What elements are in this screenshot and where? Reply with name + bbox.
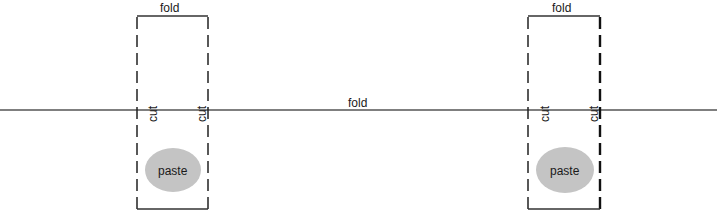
top-fold-label: fold bbox=[552, 1, 571, 15]
paste-label: paste bbox=[550, 164, 580, 178]
top-fold-label: fold bbox=[160, 1, 179, 15]
cut-label-right: cut bbox=[587, 105, 601, 122]
right-panel: fold cut cut paste bbox=[528, 1, 601, 210]
cut-label-left: cut bbox=[146, 105, 160, 122]
cut-label-left: cut bbox=[538, 105, 552, 122]
paste-label: paste bbox=[158, 164, 188, 178]
left-panel: fold cut cut paste bbox=[137, 1, 209, 210]
fold-cut-paste-diagram: fold fold cut cut paste fold cut cut pas… bbox=[0, 0, 717, 211]
main-fold-label: fold bbox=[348, 96, 367, 110]
cut-label-right: cut bbox=[195, 105, 209, 122]
